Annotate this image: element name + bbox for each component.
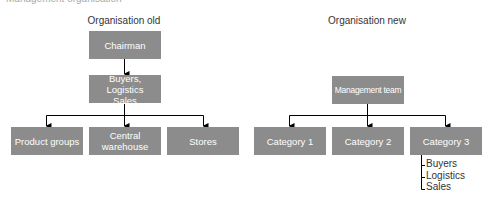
category-2-label: Category 2 — [345, 136, 391, 147]
buyers-logistics-sales-box: Buyers, Logistics Sales — [89, 75, 161, 103]
warehouse-label: warehouse — [102, 141, 148, 152]
category-2-box: Category 2 — [332, 127, 404, 155]
stores-box: Stores — [167, 127, 239, 155]
chairman-box: Chairman — [89, 31, 161, 59]
chairman-label: Chairman — [104, 40, 145, 51]
management-team-box: Management team — [332, 76, 404, 104]
category-3-label: Category 3 — [423, 136, 469, 147]
buyers-logistics-label: Buyers, Logistics — [91, 73, 159, 95]
sublist-item-buyers: Buyers — [426, 158, 465, 170]
sublist-item-logistics: Logistics — [426, 170, 465, 182]
central-warehouse-box: Central warehouse — [89, 127, 161, 155]
central-label: Central — [110, 130, 141, 141]
new-org-heading: Organisation new — [297, 15, 437, 26]
old-org-heading: Organisation old — [54, 15, 194, 26]
category-3-box: Category 3 — [410, 127, 482, 155]
sublist-item-sales: Sales — [426, 181, 465, 193]
category-1-box: Category 1 — [254, 127, 326, 155]
product-groups-label: Product groups — [15, 136, 79, 147]
category-3-sublist: Buyers Logistics Sales — [426, 158, 465, 193]
category-1-label: Category 1 — [267, 136, 313, 147]
management-team-label: Management team — [335, 85, 401, 96]
stores-label: Stores — [189, 136, 216, 147]
connector-lines — [0, 0, 492, 201]
sales-label: Sales — [113, 95, 137, 106]
product-groups-box: Product groups — [11, 127, 83, 155]
